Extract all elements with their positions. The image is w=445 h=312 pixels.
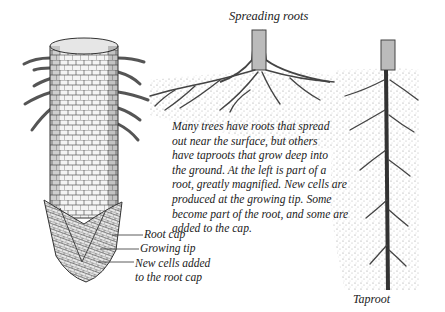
caption-line: produced at the growing tip. Some	[172, 193, 344, 208]
magnified-root	[24, 38, 148, 282]
caption-line: the ground. At the left is part of a	[172, 164, 344, 179]
new-cells-label: New cells added to the root cap	[135, 256, 210, 284]
caption-line: have taproots that grow deep into	[172, 149, 344, 164]
caption-line: out near the surface, but others	[172, 135, 344, 150]
caption: Many trees have roots that spread out ne…	[172, 120, 344, 237]
root-diagram: Spreading roots Many trees have roots th…	[0, 0, 445, 312]
caption-line: added to the cap.	[172, 222, 344, 237]
growing-tip-label: Growing tip	[140, 242, 195, 254]
caption-line: root, greatly magnified. New cells are	[172, 178, 344, 193]
caption-line: become part of the root, and some are	[172, 208, 344, 223]
root-cap-label: Root cap	[144, 228, 185, 240]
taproot-title: Taproot	[353, 292, 390, 307]
spreading-roots-title: Spreading roots	[229, 9, 308, 24]
caption-line: Many trees have roots that spread	[172, 120, 344, 135]
new-cells-line-1: New cells added	[135, 256, 210, 270]
new-cells-line-2: to the root cap	[135, 270, 210, 284]
